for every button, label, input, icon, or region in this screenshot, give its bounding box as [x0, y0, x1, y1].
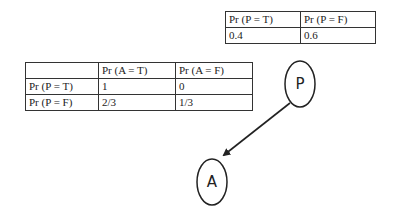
bayes-network-graph: P A — [0, 0, 393, 216]
node-p-label: P — [295, 75, 304, 93]
edge-arrow-p-to-a — [224, 103, 290, 155]
node-a-label: A — [207, 173, 218, 191]
